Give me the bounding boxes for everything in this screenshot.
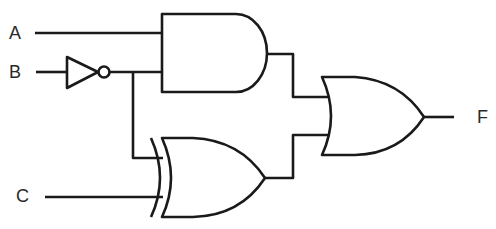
or-gate — [322, 77, 424, 155]
output-label-f: F — [477, 108, 488, 126]
input-label-b: B — [9, 63, 21, 81]
inversion-bubble-icon — [99, 67, 110, 78]
wire-and-to-or — [266, 54, 330, 97]
and-gate — [162, 14, 267, 92]
xor-gate — [151, 138, 265, 217]
logic-circuit-diagram: A B C F — [0, 0, 496, 229]
wire-b-not-to-xor — [133, 72, 163, 158]
input-label-c: C — [16, 187, 29, 205]
wire-xor-to-or — [265, 135, 330, 178]
circuit-svg — [0, 0, 496, 229]
input-label-a: A — [9, 24, 21, 42]
not-gate — [67, 57, 110, 88]
